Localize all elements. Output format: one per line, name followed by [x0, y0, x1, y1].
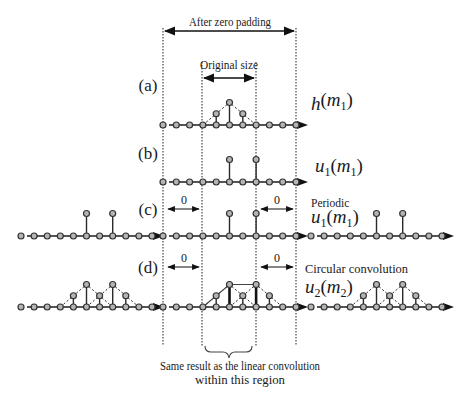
axis-sample	[160, 304, 166, 310]
axis-sample	[84, 304, 90, 310]
axis-sample	[200, 304, 206, 310]
zero-label-right-d: 0	[274, 251, 280, 265]
axis-sample	[227, 179, 233, 185]
axis-sample	[173, 304, 179, 310]
sample-point	[374, 211, 380, 217]
axis-sample	[266, 122, 272, 128]
axis-sample	[160, 179, 166, 185]
axis-sample	[70, 233, 76, 239]
sample-point	[123, 293, 129, 299]
axis-sample	[149, 233, 155, 239]
axis-sample	[280, 233, 286, 239]
axis-sample	[293, 304, 299, 310]
sample-point	[70, 293, 76, 299]
axis-sample	[187, 304, 193, 310]
axis-sample	[200, 179, 206, 185]
sample-point	[227, 211, 233, 217]
row-tag-a: (a)	[139, 76, 158, 95]
sample-point	[360, 293, 366, 299]
bottom-note-line-1: Same result as the linear convolution	[160, 360, 320, 372]
zero-label-right-c: 0	[274, 193, 280, 207]
axis-sample	[213, 122, 219, 128]
bottom-note-line-2: within this region	[195, 374, 285, 387]
axis-sample	[293, 122, 299, 128]
axis-sample	[57, 233, 63, 239]
sample-point	[227, 282, 233, 288]
axis-sample	[123, 233, 129, 239]
axis-sample	[187, 122, 193, 128]
sample-point	[240, 111, 246, 117]
sample-point	[413, 293, 419, 299]
axis-sample	[110, 304, 116, 310]
axis-sample	[308, 304, 314, 310]
sample-point	[400, 211, 406, 217]
axis-sample	[253, 233, 259, 239]
axis-sample	[360, 233, 366, 239]
axis-sample	[266, 304, 272, 310]
axis-sample	[123, 304, 129, 310]
axis-sample	[374, 233, 380, 239]
axis-sample	[110, 233, 116, 239]
axis-sample	[240, 179, 246, 185]
sequence-c-center	[160, 211, 308, 241]
sample-point	[266, 293, 272, 299]
axis-sample	[18, 233, 24, 239]
sample-point	[227, 157, 233, 163]
region-brace	[205, 346, 252, 358]
after-zero-padding-label: After zero padding	[189, 15, 272, 29]
sample-point	[213, 111, 219, 117]
axis-sample	[97, 304, 103, 310]
axis-sample	[253, 122, 259, 128]
axis-sample	[266, 179, 272, 185]
row-tag-c: (c)	[139, 200, 158, 219]
axis-sample	[266, 233, 272, 239]
axis-sample	[334, 304, 340, 310]
sample-point	[253, 282, 259, 288]
axis-sample	[400, 304, 406, 310]
axis-sample	[400, 233, 406, 239]
axis-sample	[173, 233, 179, 239]
axis-sample	[374, 304, 380, 310]
sample-point	[110, 282, 116, 288]
sample-point	[97, 293, 103, 299]
axis-sample	[293, 233, 299, 239]
sample-point	[213, 293, 219, 299]
sequence-d-center	[160, 282, 308, 312]
axis-sample	[240, 233, 246, 239]
zero-markers-c: 0 0	[168, 193, 293, 209]
axis-sample	[149, 304, 155, 310]
circular-convolution-caption: Circular convolution	[305, 263, 408, 275]
row-tag-b: (b)	[138, 144, 158, 163]
axis-sample	[360, 304, 366, 310]
axis-sample	[136, 233, 142, 239]
axis-sample	[31, 304, 37, 310]
axis-sample	[439, 233, 445, 239]
sample-point	[240, 293, 246, 299]
sample-point	[84, 282, 90, 288]
axis-sample	[187, 179, 193, 185]
signal-label-a: h(m1)	[311, 89, 353, 114]
axis-sample	[31, 233, 37, 239]
zero-label-left-d: 0	[181, 251, 187, 265]
signal-label-c: u1(m1)	[311, 206, 359, 230]
axis-sample	[213, 304, 219, 310]
axis-sample	[44, 233, 50, 239]
axis-sample	[18, 304, 24, 310]
row-tag-d: (d)	[138, 258, 158, 277]
sample-point	[400, 282, 406, 288]
axis-sample	[308, 233, 314, 239]
axis-sample	[213, 233, 219, 239]
zero-markers-d: 0 0	[168, 251, 293, 267]
axis-sample	[280, 122, 286, 128]
axis-sample	[253, 304, 259, 310]
axis-sample	[439, 304, 445, 310]
axis-sample	[387, 233, 393, 239]
axis-sample	[321, 233, 327, 239]
axis-sample	[70, 304, 76, 310]
original-size-label: Original size	[200, 58, 258, 72]
axis-sample	[280, 304, 286, 310]
axis-sample	[187, 233, 193, 239]
axis-sample	[280, 179, 286, 185]
sample-point	[387, 293, 393, 299]
axis-sample	[240, 122, 246, 128]
